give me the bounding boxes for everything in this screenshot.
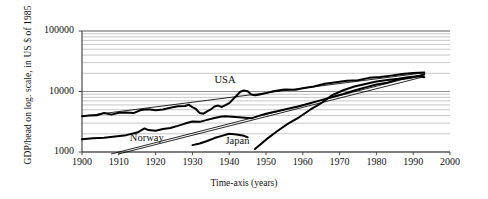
x-tick-label-1950: 1950 [246,156,286,167]
series-label-usa: USA [214,74,235,85]
x-tick-label-1940: 1940 [209,156,249,167]
x-tick-label-1990: 1990 [393,156,433,167]
y-tick-label-10000: 10000 [26,85,74,96]
series-label-norway: Norway [130,132,164,143]
x-tick-label-1930: 1930 [172,156,212,167]
x-tick-label-1960: 1960 [283,156,323,167]
x-tick-label-2000: 2000 [430,156,470,167]
x-tick-label-1920: 1920 [136,156,176,167]
y-tick-label-100000: 100000 [26,24,74,35]
x-tick-label-1910: 1910 [99,156,139,167]
x-tick-label-1970: 1970 [320,156,360,167]
series-line-norway [82,75,424,140]
series-label-japan: Japan [226,135,250,146]
x-tick-label-1900: 1900 [62,156,102,167]
y-tick-label-1000: 1000 [26,145,74,156]
gdp-per-head-log-chart: GDP/head on log. scale, in US $ of 1985 … [0,0,488,199]
x-tick-label-1980: 1980 [356,156,396,167]
